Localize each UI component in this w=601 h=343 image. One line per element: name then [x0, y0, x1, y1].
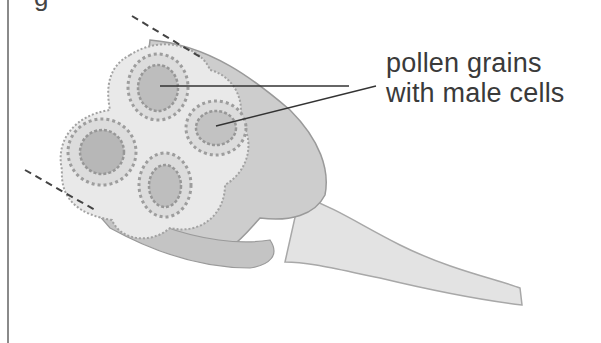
- pollen-sac-right: [186, 101, 246, 155]
- pollen-sac-left: [68, 119, 136, 185]
- pollen-grains-label: pollen grains with male cells: [386, 48, 565, 108]
- pollen-sac-top: [128, 54, 188, 120]
- filament: [285, 195, 522, 305]
- diagram-figure: g: [0, 0, 601, 343]
- label-line-2: with male cells: [386, 78, 565, 108]
- label-line-1: pollen grains: [386, 48, 565, 78]
- pollen-sac-bottom: [139, 153, 191, 217]
